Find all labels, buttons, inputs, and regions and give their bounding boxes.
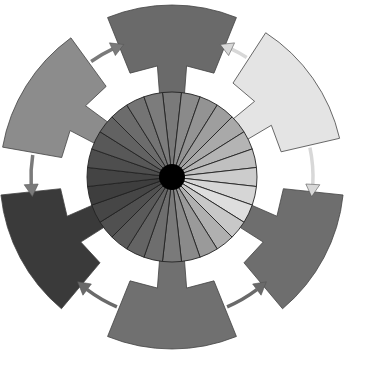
arrow-bottom-to-lower-left: [87, 290, 117, 307]
diagram-canvas: [0, 0, 378, 377]
cycle-diagram: [0, 0, 378, 377]
arrow-upper-left-to-lower-left: [31, 155, 33, 184]
center-hub: [159, 164, 185, 190]
arrow-upper-left-to-top: [91, 49, 112, 61]
arrow-upper-right-to-lower-right: [310, 148, 313, 185]
arrow-upper-right-to-top: [232, 49, 247, 57]
arrow-bottom-to-lower-right: [227, 290, 257, 307]
